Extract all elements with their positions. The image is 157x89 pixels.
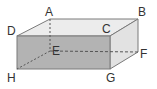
vertex-label-E: E: [52, 44, 60, 58]
vertex-label-F: F: [140, 47, 147, 61]
vertex-label-G: G: [106, 71, 115, 85]
vertex-label-A: A: [45, 5, 53, 19]
vertex-label-D: D: [7, 24, 16, 38]
vertex-label-C: C: [102, 22, 111, 36]
vertex-label-B: B: [138, 5, 146, 19]
prism-diagram: A B C D E F G H: [0, 0, 157, 89]
front-face: [17, 36, 110, 69]
vertex-label-H: H: [7, 71, 16, 85]
